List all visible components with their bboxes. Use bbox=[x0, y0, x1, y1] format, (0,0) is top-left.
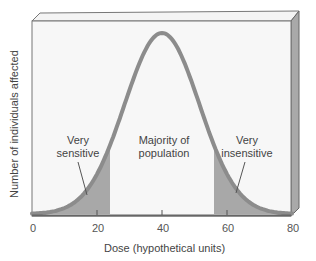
label-line: Very bbox=[48, 134, 108, 147]
x-tick-80: 80 bbox=[287, 222, 299, 234]
label-line: population bbox=[126, 147, 202, 160]
box-side-face bbox=[291, 11, 299, 216]
label-very-insensitive: Very insensitive bbox=[214, 134, 280, 160]
label-very-sensitive: Very sensitive bbox=[48, 134, 108, 160]
label-line: Majority of bbox=[126, 134, 202, 147]
label-line: insensitive bbox=[214, 147, 280, 160]
x-tick-40: 40 bbox=[157, 222, 169, 234]
x-tick-20: 20 bbox=[92, 222, 104, 234]
box-top-face bbox=[32, 11, 299, 21]
y-axis-label: Number of individuals affected bbox=[8, 50, 20, 198]
label-line: Very bbox=[214, 134, 280, 147]
x-tick-0: 0 bbox=[30, 222, 36, 234]
label-line: sensitive bbox=[48, 147, 108, 160]
x-tick-60: 60 bbox=[222, 222, 234, 234]
label-majority: Majority of population bbox=[126, 134, 202, 160]
x-axis-label: Dose (hypothetical units) bbox=[104, 242, 225, 254]
plot-area bbox=[32, 21, 291, 216]
